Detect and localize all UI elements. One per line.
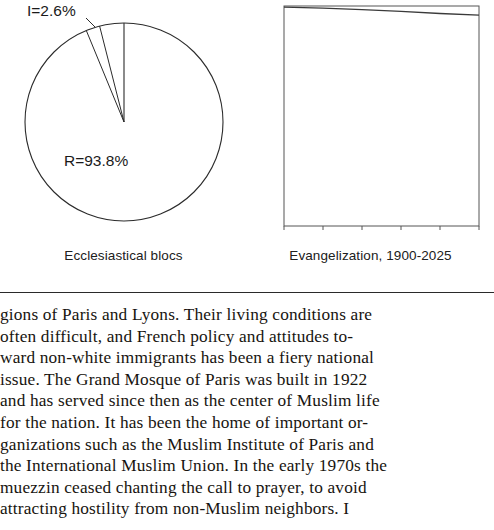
article-line: issue. The Grand Mosque of Paris was bui…: [0, 369, 494, 391]
pie-slice-divider-i: [100, 26, 124, 122]
ecclesiastical-blocs-pie-chart: [0, 0, 247, 240]
article-line: for the nation. It has been the home of …: [0, 412, 494, 434]
evangelization-line-chart: [247, 0, 494, 240]
pie-chart-panel: I=2.6% R=93.8% Ecclesiastical blocs: [0, 0, 247, 286]
article-line: ganizations such as the Muslim Institute…: [0, 434, 494, 456]
pie-label-roman-catholic: R=93.8%: [64, 152, 128, 170]
line-chart-panel: % 80 60 40 20 0 1900 1925 1950 1975 2000…: [247, 0, 494, 286]
article-line: ward non-white immigrants has been a fie…: [0, 347, 494, 369]
article-line: often difficult, and French policy and a…: [0, 326, 494, 348]
figure-block: I=2.6% R=93.8% Ecclesiastical blocs % 80…: [0, 0, 494, 286]
article-body: gions of Paris and Lyons. Their living c…: [0, 304, 494, 520]
pie-slice-divider-other: [86, 31, 124, 123]
pie-leader-line-i: [86, 18, 95, 27]
figure-separator-rule: [0, 292, 494, 293]
article-line: gions of Paris and Lyons. Their living c…: [0, 304, 494, 326]
plot-frame: [284, 6, 479, 226]
pie-chart-caption: Ecclesiastical blocs: [0, 248, 247, 263]
article-line: attracting hostility from non-Muslim nei…: [0, 498, 494, 520]
line-chart-caption: Evangelization, 1900-2025: [247, 248, 494, 263]
article-line: the International Muslim Union. In the e…: [0, 455, 494, 477]
article-line: muezzin ceased chanting the call to pray…: [0, 477, 494, 499]
pie-label-independent: I=2.6%: [27, 2, 76, 20]
x-axis-ticks: [284, 226, 479, 230]
article-line: and has served since then as the center …: [0, 390, 494, 412]
